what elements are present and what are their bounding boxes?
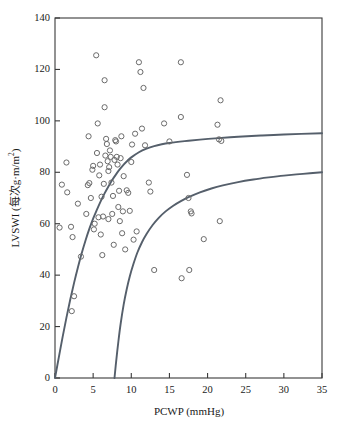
chart-figure: 05101520253035020406080100120140 PCWP (m… [0, 0, 341, 430]
data-point-marker [64, 160, 69, 165]
data-point-marker [86, 134, 91, 139]
y-axis-title-exponent: 2 [7, 152, 16, 156]
data-point-marker [102, 78, 107, 83]
y-tick-label: 100 [34, 116, 50, 127]
data-point-marker [97, 162, 102, 167]
y-tick-label: 140 [34, 13, 50, 24]
data-point-marker [71, 294, 76, 299]
y-tick-label: 80 [40, 167, 51, 178]
data-point-marker [59, 182, 64, 187]
data-point-marker [57, 225, 62, 230]
data-point-marker [120, 231, 125, 236]
data-point-marker [69, 309, 74, 314]
x-tick-label: 0 [52, 385, 57, 396]
data-point-marker [161, 121, 166, 126]
data-point-marker [97, 173, 102, 178]
y-tick-label: 20 [40, 321, 51, 332]
data-point-marker [215, 122, 220, 127]
data-point-marker [107, 148, 112, 153]
data-point-marker [178, 60, 183, 65]
data-point-marker [94, 53, 99, 58]
y-axis-title: LVSWI (每次g·m/m2) [6, 149, 22, 248]
data-point-marker [103, 153, 108, 158]
data-point-marker [138, 69, 143, 74]
data-point-marker [120, 209, 125, 214]
y-tick-label: 40 [40, 270, 51, 281]
data-point-marker [104, 136, 109, 141]
x-tick-label: 25 [240, 385, 251, 396]
data-points [57, 53, 224, 314]
data-point-marker [146, 180, 151, 185]
data-point-marker [129, 142, 134, 147]
data-point-marker [111, 242, 116, 247]
data-point-marker [119, 134, 124, 139]
data-point-marker [84, 211, 89, 216]
y-axis-title-prefix: LVSWI (每次g·m/m [9, 156, 21, 248]
data-point-marker [131, 237, 136, 242]
data-point-marker [139, 126, 144, 131]
x-tick-label: 5 [91, 385, 96, 396]
y-tick-label: 60 [40, 218, 51, 229]
data-point-marker [95, 121, 100, 126]
data-point-marker [91, 227, 96, 232]
x-tick-label: 35 [317, 385, 328, 396]
data-point-marker [201, 237, 206, 242]
data-point-marker [117, 219, 122, 224]
data-point-marker [94, 150, 99, 155]
data-point-marker [68, 224, 73, 229]
data-point-marker [178, 114, 183, 119]
data-point-marker [92, 221, 97, 226]
data-point-marker [217, 219, 222, 224]
data-point-marker [148, 189, 153, 194]
y-tick-label: 0 [45, 373, 50, 384]
scatter-plot-svg [0, 0, 341, 430]
data-point-marker [127, 208, 132, 213]
data-point-marker [152, 267, 157, 272]
x-axis-title: PCWP (mmHg) [154, 405, 224, 417]
data-point-marker [218, 98, 223, 103]
data-point-marker [136, 60, 141, 65]
data-point-marker [142, 143, 147, 148]
data-point-marker [187, 267, 192, 272]
data-point-marker [121, 174, 126, 179]
data-point-marker [88, 195, 93, 200]
data-point-marker [123, 247, 128, 252]
data-point-marker [134, 229, 139, 234]
data-point-marker [141, 85, 146, 90]
data-point-marker [116, 204, 121, 209]
y-axis-title-suffix: ) [9, 149, 21, 153]
data-point-marker [110, 193, 115, 198]
data-point-marker [101, 181, 106, 186]
data-point-marker [70, 234, 75, 239]
x-tick-label: 20 [202, 385, 213, 396]
data-point-marker [133, 131, 138, 136]
data-point-marker [100, 252, 105, 257]
data-point-marker [110, 211, 115, 216]
data-point-marker [115, 162, 120, 167]
y-tick-label: 120 [34, 64, 50, 75]
data-point-marker [65, 190, 70, 195]
data-point-marker [104, 141, 109, 146]
data-point-marker [102, 105, 107, 110]
data-point-marker [179, 276, 184, 281]
x-tick-label: 10 [126, 385, 137, 396]
data-point-marker [75, 201, 80, 206]
lower-boundary-curve [115, 172, 323, 378]
data-point-marker [116, 188, 121, 193]
data-point-marker [98, 232, 103, 237]
data-point-marker [106, 216, 111, 221]
data-point-marker [129, 159, 134, 164]
data-point-marker [184, 172, 189, 177]
x-tick-label: 30 [279, 385, 290, 396]
x-tick-label: 15 [164, 385, 175, 396]
